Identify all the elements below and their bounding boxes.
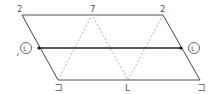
diagram-canvas: 2 7 2 L L コ L コ (0, 0, 213, 94)
label-bottom-middle: L (125, 83, 130, 93)
label-top-left: 2 (17, 4, 22, 14)
label-top-middle: 7 (90, 4, 95, 14)
right-dot (179, 46, 182, 49)
label-left-circle: L (23, 45, 27, 53)
label-top-right: 2 (160, 4, 165, 14)
label-bottom-left: コ (54, 83, 63, 93)
label-right-circle: L (191, 45, 195, 53)
label-bottom-right: コ (197, 83, 206, 93)
left-dot (37, 46, 40, 49)
left-pointer-tick (17, 53, 19, 56)
